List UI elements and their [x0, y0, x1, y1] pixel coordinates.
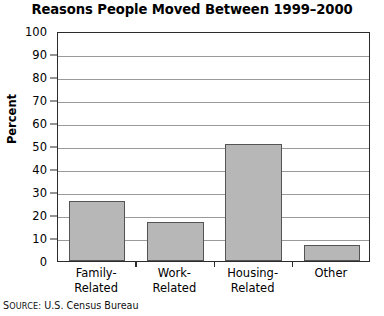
- y-axis-tick-label: 60: [32, 117, 47, 131]
- y-axis-tick-label: 30: [32, 186, 47, 200]
- x-axis-category-label-line1: Work-: [158, 266, 191, 280]
- x-axis-category-label-line1: Other: [315, 266, 348, 280]
- y-axis-tick-mark: [50, 55, 57, 56]
- x-axis-category-labels: Family-RelatedWork-RelatedHousing-Relate…: [57, 266, 370, 302]
- y-axis-tick-label: 20: [32, 209, 47, 223]
- y-axis-tick-mark: [50, 124, 57, 125]
- y-axis-tick-labels: 0102030405060708090100: [0, 32, 57, 262]
- plot-area: [57, 32, 370, 262]
- y-axis-tick-label: 40: [32, 163, 47, 177]
- y-axis-tick-mark: [50, 147, 57, 148]
- bar-chart-figure: Reasons People Moved Between 1999–2000 P…: [0, 0, 384, 316]
- bar: [147, 222, 203, 261]
- y-axis-tick-mark: [50, 78, 57, 79]
- x-axis-category-label: Family-Related: [57, 266, 135, 295]
- x-axis-category-label-line1: Family-: [76, 266, 117, 280]
- source-note-label: SOURCE:: [3, 301, 41, 311]
- source-note-label-rest: OURCE:: [9, 301, 41, 311]
- chart-title: Reasons People Moved Between 1999–2000: [0, 2, 384, 17]
- x-axis-category-label-line2: Related: [214, 281, 292, 296]
- y-axis-tick-mark: [50, 101, 57, 102]
- y-axis-tick-label: 0: [40, 255, 47, 269]
- y-axis-tick-mark: [50, 170, 57, 171]
- y-axis-tick-label: 50: [32, 140, 47, 154]
- source-note-text: U.S. Census Bureau: [44, 300, 138, 311]
- y-axis-tick-label: 90: [32, 48, 47, 62]
- source-note: SOURCE: U.S. Census Bureau: [3, 300, 139, 311]
- y-axis-tick-label: 80: [32, 71, 47, 85]
- y-axis-tick-label: 100: [25, 25, 47, 39]
- bar: [225, 144, 281, 261]
- x-axis-category-label-line2: Related: [57, 281, 135, 296]
- x-axis-category-label-line2: Related: [135, 281, 213, 296]
- x-axis-category-label-line1: Housing-: [227, 266, 278, 280]
- y-axis-tick-mark: [50, 216, 57, 217]
- y-axis-tick-label: 70: [32, 94, 47, 108]
- y-axis-tick-label: 10: [32, 232, 47, 246]
- x-axis-category-label: Housing-Related: [214, 266, 292, 295]
- bar-series: [58, 33, 369, 261]
- y-axis-tick-mark: [50, 239, 57, 240]
- bar: [69, 201, 125, 261]
- y-axis-tick-mark: [50, 193, 57, 194]
- x-axis-category-label: Work-Related: [135, 266, 213, 295]
- bar: [304, 245, 360, 261]
- x-axis-category-label: Other: [292, 266, 370, 281]
